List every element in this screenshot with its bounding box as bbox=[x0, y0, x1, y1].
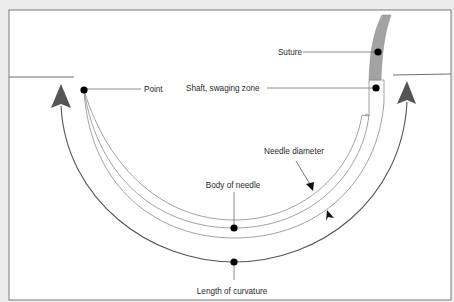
body-dot bbox=[230, 224, 237, 231]
label-suture: Suture bbox=[278, 47, 302, 57]
point-dot bbox=[80, 86, 87, 93]
label-shaft: Shaft, swaging zone bbox=[186, 83, 260, 93]
label-needle-diameter: Needle diameter bbox=[264, 146, 324, 156]
suture-dot bbox=[374, 48, 381, 55]
label-body: Body of needle bbox=[206, 180, 261, 190]
label-length: Length of curvature bbox=[197, 286, 267, 296]
shaft-dot bbox=[372, 84, 379, 91]
length-dot bbox=[230, 258, 237, 265]
label-point: Point bbox=[144, 84, 163, 94]
diagram-canvas bbox=[0, 0, 454, 302]
diagram-frame bbox=[9, 10, 451, 300]
needle-diagram: Suture Shaft, swaging zone Point Needle … bbox=[0, 0, 454, 302]
